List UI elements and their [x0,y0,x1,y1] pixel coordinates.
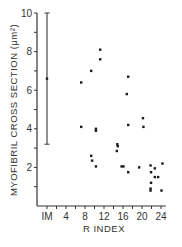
y-tick-label: 10 [21,8,33,19]
data-point [95,130,97,132]
x-tick-label: 4 [63,211,69,222]
data-point [154,167,156,169]
data-point [80,81,82,83]
data-point [127,124,129,126]
y-tick-label: 8 [26,46,32,57]
y-tick-label: 2 [26,162,32,173]
data-point [127,171,129,173]
data-point [149,164,151,166]
x-tick-label: 20 [136,211,148,222]
x-tick-label: IM [41,211,52,222]
data-point [99,58,101,60]
x-axis-title: R INDEX [83,223,125,234]
data-point [157,176,159,178]
x-tick-label: 24 [155,211,167,222]
data-point [126,93,128,95]
data-point [116,150,118,152]
axes: 246810IM4812162024 [21,8,167,223]
data-point [90,70,92,72]
y-tick-label: 6 [26,85,32,96]
data-points [80,48,164,191]
x-tick-label: 12 [98,211,110,222]
data-point [91,159,93,161]
data-point [161,162,163,164]
x-tick-label: 8 [82,211,88,222]
data-point [150,182,152,184]
data-point [95,165,97,167]
im-mean-marker [46,77,48,79]
data-point [149,189,151,191]
y-axis-title: MYOFIBRIL CROSS SECTION (μm²) [8,24,19,196]
data-point [160,189,162,191]
data-point [90,155,92,157]
data-point [80,126,82,128]
x-tick-label: 16 [117,211,129,222]
im-range-bar [45,13,50,144]
data-point [142,117,144,119]
y-tick-label: 4 [26,123,32,134]
data-point [117,145,119,147]
data-point [154,176,156,178]
scatter-chart: 246810IM4812162024 R INDEX MYOFIBRIL CRO… [0,0,182,247]
data-point [99,48,101,50]
data-point [127,75,129,77]
data-point [142,126,144,128]
data-point [150,171,152,173]
data-point [138,166,140,168]
data-point [122,165,124,167]
